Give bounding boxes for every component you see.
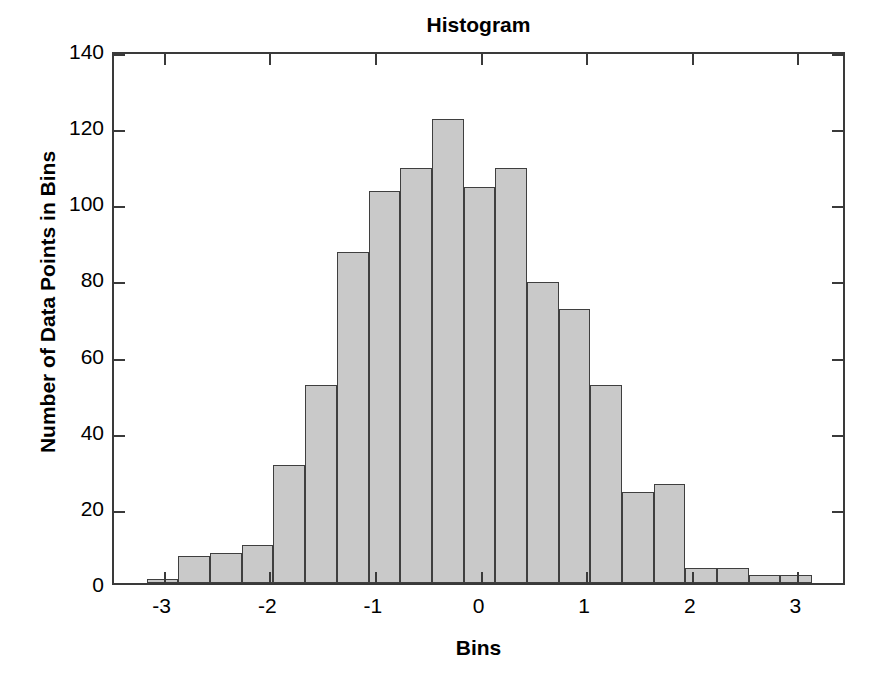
x-tick-label: -1: [338, 595, 408, 616]
x-tick-mark: [481, 54, 483, 65]
y-tick-label: 20: [44, 498, 104, 519]
y-tick-mark: [114, 130, 125, 132]
histogram-bar: [464, 187, 496, 583]
histogram-bar: [178, 556, 210, 583]
histogram-bar: [527, 282, 559, 583]
figure-canvas: Histogram 020406080100120140 -3-2-10123 …: [0, 0, 877, 680]
x-axis-tick-labels: -3-2-10123: [112, 595, 845, 623]
x-tick-mark: [797, 572, 799, 583]
x-tick-mark: [164, 572, 166, 583]
histogram-bar: [654, 484, 686, 583]
y-axis-tick-labels: 020406080100120140: [40, 52, 104, 585]
x-tick-mark: [692, 572, 694, 583]
y-tick-mark: [114, 54, 125, 56]
histogram-bars: [114, 54, 843, 583]
y-tick-label: 140: [44, 41, 104, 62]
y-tick-mark: [114, 359, 125, 361]
x-tick-label: 1: [549, 595, 619, 616]
x-tick-mark: [375, 572, 377, 583]
chart-title: Histogram: [112, 12, 845, 38]
y-tick-label: 120: [44, 117, 104, 138]
histogram-bar: [305, 385, 337, 583]
x-axis-label: Bins: [112, 636, 845, 660]
y-tick-mark: [832, 206, 843, 208]
y-tick-mark: [832, 435, 843, 437]
y-tick-mark: [114, 435, 125, 437]
y-tick-mark: [832, 511, 843, 513]
y-tick-mark: [832, 282, 843, 284]
x-tick-mark: [692, 54, 694, 65]
x-tick-label: 2: [655, 595, 725, 616]
y-tick-label: 80: [44, 269, 104, 290]
y-tick-label: 100: [44, 193, 104, 214]
y-tick-mark: [114, 511, 125, 513]
histogram-bar: [210, 553, 242, 583]
histogram-bar: [273, 465, 305, 583]
y-tick-label: 0: [44, 574, 104, 595]
x-tick-label: -2: [232, 595, 302, 616]
plot-area: [112, 52, 845, 585]
x-tick-label: 0: [444, 595, 514, 616]
x-tick-mark: [269, 54, 271, 65]
y-tick-mark: [832, 130, 843, 132]
y-tick-mark: [832, 359, 843, 361]
x-tick-mark: [481, 572, 483, 583]
x-tick-mark: [586, 54, 588, 65]
histogram-bar: [337, 252, 369, 583]
histogram-bar: [400, 168, 432, 583]
histogram-bar: [780, 575, 812, 583]
histogram-bar: [495, 168, 527, 583]
y-tick-mark: [832, 54, 843, 56]
x-tick-mark: [164, 54, 166, 65]
histogram-bar: [622, 492, 654, 583]
y-tick-mark: [114, 206, 125, 208]
x-tick-label: 3: [760, 595, 830, 616]
x-tick-mark: [797, 54, 799, 65]
histogram-bar: [147, 579, 179, 583]
x-tick-mark: [375, 54, 377, 65]
y-tick-label: 60: [44, 346, 104, 367]
x-tick-mark: [269, 572, 271, 583]
histogram-bar: [685, 568, 717, 583]
histogram-bar: [590, 385, 622, 583]
y-tick-mark: [114, 282, 125, 284]
histogram-bar: [369, 191, 401, 583]
y-tick-label: 40: [44, 422, 104, 443]
histogram-bar: [432, 119, 464, 583]
x-tick-label: -3: [127, 595, 197, 616]
histogram-bar: [717, 568, 749, 583]
x-tick-mark: [586, 572, 588, 583]
histogram-bar: [749, 575, 781, 583]
histogram-bar: [559, 309, 591, 583]
